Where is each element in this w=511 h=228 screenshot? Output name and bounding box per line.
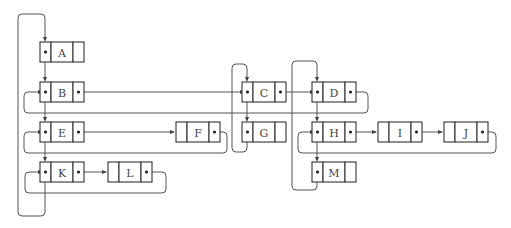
arrowhead-into-i (372, 130, 377, 134)
node-label: A (57, 47, 67, 60)
left-pointer-cell (378, 122, 389, 142)
pointer-dot-icon (145, 170, 148, 173)
pointer-dot-icon (481, 130, 484, 133)
linked-structure-diagram: ABEKLFCGDHMIJ (0, 0, 511, 228)
node-b: B (40, 82, 84, 102)
node-label: D (330, 87, 339, 100)
right-pointer-cell (345, 162, 356, 182)
node-d: D (312, 82, 356, 102)
pointer-dot-icon (316, 170, 319, 173)
connector-lines (18, 14, 496, 216)
arrowhead-into-e (43, 117, 47, 122)
node-m: M (312, 162, 356, 182)
node-k: K (40, 162, 84, 182)
pointer-dot-icon (246, 90, 249, 93)
pointer-dot-icon (213, 130, 216, 133)
node-label: B (58, 87, 66, 100)
pointer-dot-icon (77, 170, 80, 173)
arrowhead-into-l (102, 170, 107, 174)
node-label: I (398, 127, 402, 140)
pointer-dot-icon (349, 130, 352, 133)
arrowhead-into-g (245, 117, 249, 122)
left-pointer-cell (444, 122, 455, 142)
node-label: J (463, 127, 468, 140)
arrowhead-into-h (315, 117, 319, 122)
pointer-dot-icon (415, 130, 418, 133)
pointer-dot-icon (44, 90, 47, 93)
pointer-dot-icon (44, 130, 47, 133)
pointer-dot-icon (44, 50, 47, 53)
arrowhead-into-b (43, 77, 47, 82)
node-c: C (242, 82, 286, 102)
arrowhead-into-j (438, 130, 443, 134)
left-pointer-cell (176, 122, 187, 142)
pointer-dot-icon (77, 90, 80, 93)
node-h: H (312, 122, 356, 142)
pointer-dot-icon (77, 130, 80, 133)
node-label: F (194, 127, 202, 140)
pointer-dot-icon (349, 90, 352, 93)
node-label: G (260, 127, 269, 140)
nodes: ABEKLFCGDHMIJ (40, 42, 488, 182)
node-j: J (444, 122, 488, 142)
node-g: G (242, 122, 286, 142)
pointer-dot-icon (279, 90, 282, 93)
arrowhead-into-a (43, 37, 47, 42)
node-label: L (126, 167, 134, 180)
node-label: H (329, 127, 339, 140)
right-pointer-cell (275, 122, 286, 142)
node-e: E (40, 122, 84, 142)
arrowhead-into-k (43, 157, 47, 162)
node-label: M (328, 167, 339, 180)
arrowhead-into-f (170, 130, 175, 134)
arrowhead-into-d-top (315, 77, 319, 82)
pointer-dot-icon (316, 130, 319, 133)
node-a: A (40, 42, 84, 62)
pointer-dot-icon (246, 130, 249, 133)
node-label: K (58, 167, 67, 180)
pointer-dot-icon (316, 90, 319, 93)
arrowhead-into-c-top (245, 77, 249, 82)
node-f: F (176, 122, 220, 142)
right-pointer-cell (73, 42, 84, 62)
left-pointer-cell (108, 162, 119, 182)
node-l: L (108, 162, 152, 182)
arrowhead-into-m (315, 157, 319, 162)
node-label: E (58, 127, 66, 140)
node-label: C (260, 87, 268, 100)
pointer-dot-icon (44, 170, 47, 173)
node-i: I (378, 122, 422, 142)
